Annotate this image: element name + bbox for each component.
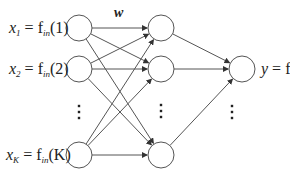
input-neuron: [66, 56, 92, 82]
ellipsis-dot: [160, 104, 162, 106]
input-label-xK: xK = fin(K): [6, 147, 71, 165]
input-label-x2: x2 = fin(2): [9, 61, 69, 79]
hidden-neuron: [148, 56, 174, 82]
weight-label: w: [114, 6, 123, 20]
ellipsis-dot: [160, 116, 162, 118]
ellipsis-dot: [78, 111, 80, 113]
output-neuron: [229, 56, 255, 82]
input-var-subscript: 2: [16, 69, 21, 79]
ellipsis-dot: [78, 117, 80, 119]
hidden-neuron: [148, 142, 174, 168]
input-var-subscript: 1: [16, 28, 21, 38]
ellipsis-dot: [78, 105, 80, 107]
input-fn-arg: (1): [50, 19, 69, 36]
input-label-x1: x1 = fin(1): [9, 20, 69, 38]
ellipsis-dot: [231, 105, 233, 107]
input-var-subscript: K: [13, 155, 19, 165]
input-fn-subscript: in: [43, 28, 50, 38]
input-fn-arg: (2): [50, 60, 69, 77]
input-fn-arg: (K): [49, 146, 71, 163]
input-fn-subscript: in: [41, 155, 48, 165]
output-equals: =: [268, 60, 285, 77]
hidden-neuron: [148, 15, 174, 41]
weight-edges: [86, 28, 232, 155]
output-label: y = fout: [261, 61, 290, 79]
ellipsis-dot: [231, 117, 233, 119]
input-fn-subscript: in: [43, 69, 50, 79]
weight-edge: [173, 34, 230, 63]
input-neuron: [66, 15, 92, 41]
ellipsis-dot: [231, 111, 233, 113]
neurons: [66, 15, 255, 168]
weight-edge: [170, 79, 232, 145]
ellipsis-dots: [78, 104, 233, 119]
ellipsis-dot: [160, 110, 162, 112]
neural-network-diagram: x1 = fin(1) x2 = fin(2) xK = fin(K) w y …: [0, 0, 290, 178]
